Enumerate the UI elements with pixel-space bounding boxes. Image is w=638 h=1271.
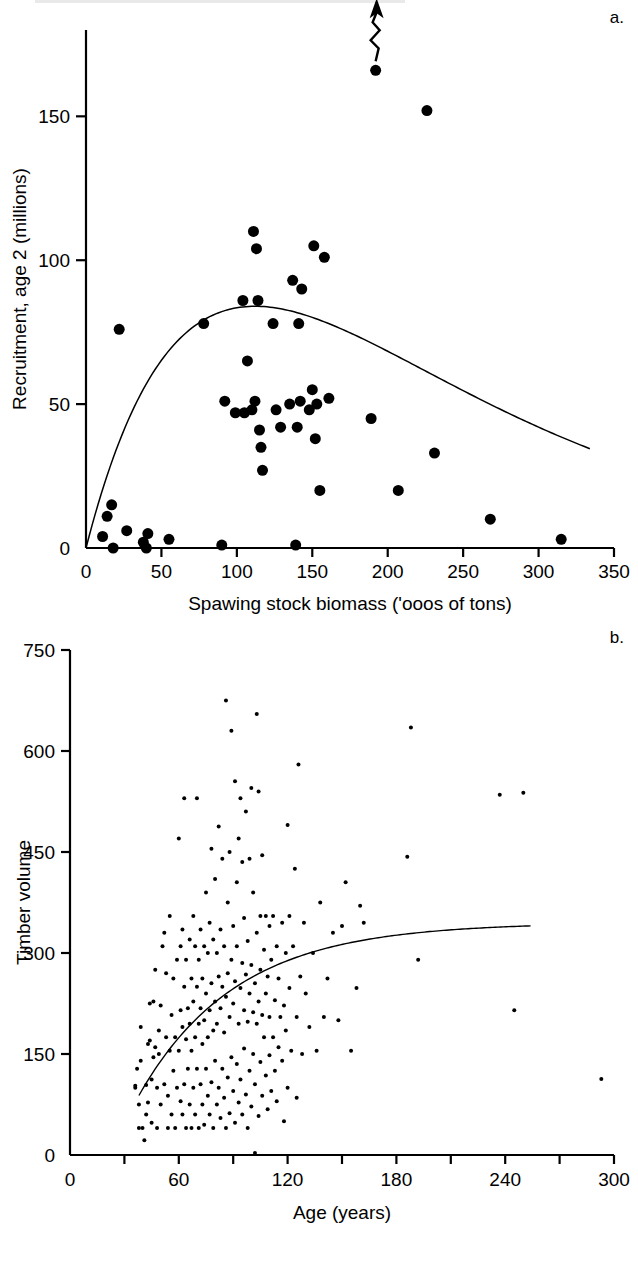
- panel-b: b. 0601201802403000150300450600750Age (y…: [0, 620, 638, 1271]
- chart-b-scatter: 0601201802403000150300450600750Age (year…: [0, 620, 638, 1271]
- svg-text:Timber volume: Timber volume: [13, 840, 34, 965]
- svg-text:Recruitment, age 2 (millions): Recruitment, age 2 (millions): [9, 168, 30, 410]
- svg-text:750: 750: [23, 640, 55, 661]
- svg-text:Spawing stock biomass ('ooos o: Spawing stock biomass ('ooos of tons): [188, 593, 512, 614]
- panel-a: a. 050100150200250300350050100150Spawing…: [0, 0, 638, 620]
- svg-text:120: 120: [272, 1169, 304, 1190]
- svg-text:50: 50: [49, 394, 70, 415]
- svg-text:100: 100: [221, 561, 253, 582]
- svg-text:Age (years): Age (years): [293, 1202, 391, 1223]
- svg-text:180: 180: [381, 1169, 413, 1190]
- svg-text:240: 240: [489, 1169, 521, 1190]
- svg-text:300: 300: [598, 1169, 630, 1190]
- svg-text:0: 0: [59, 538, 70, 559]
- svg-text:0: 0: [65, 1169, 76, 1190]
- svg-text:100: 100: [38, 250, 70, 271]
- svg-text:200: 200: [372, 561, 404, 582]
- chart-a-scatter: 050100150200250300350050100150Spawing st…: [0, 0, 638, 620]
- svg-text:0: 0: [81, 561, 92, 582]
- svg-text:600: 600: [23, 741, 55, 762]
- svg-text:350: 350: [598, 561, 630, 582]
- figure-container: a. 050100150200250300350050100150Spawing…: [0, 0, 638, 1271]
- svg-text:150: 150: [38, 106, 70, 127]
- svg-text:0: 0: [44, 1145, 55, 1166]
- svg-text:250: 250: [447, 561, 479, 582]
- svg-text:150: 150: [296, 561, 328, 582]
- svg-text:300: 300: [523, 561, 555, 582]
- svg-text:50: 50: [151, 561, 172, 582]
- svg-text:150: 150: [23, 1044, 55, 1065]
- svg-text:60: 60: [168, 1169, 189, 1190]
